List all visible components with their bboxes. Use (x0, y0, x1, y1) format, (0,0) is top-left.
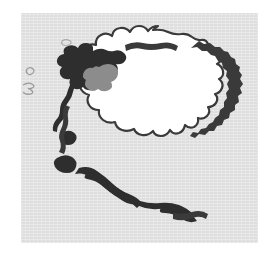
map-panel (21, 13, 258, 243)
sub-antarctic-island-west-upper-icon (26, 68, 34, 75)
sub-antarctic-island-north-icon (62, 40, 72, 46)
antarctica-map-svg (21, 13, 258, 243)
ross-coast-rock-blob (85, 173, 138, 205)
west-coast-rock-group (54, 131, 197, 222)
sub-antarctic-island-west-lower-icon (23, 83, 34, 94)
map-figure (0, 0, 276, 262)
west-coast-rock-mid (54, 155, 77, 173)
